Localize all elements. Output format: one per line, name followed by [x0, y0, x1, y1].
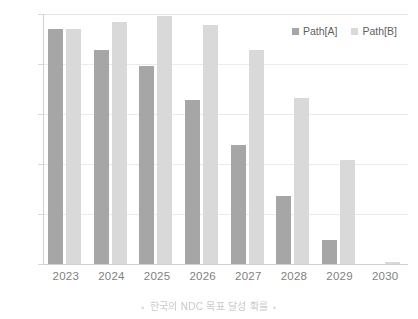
chart-legend: Path[A] Path[B]: [292, 26, 397, 37]
legend-item-path-a: Path[A]: [292, 26, 337, 37]
bar-patha-2024: [94, 50, 109, 264]
chart-caption: ▪한국의 NDC 목표 달성 확률▪: [0, 298, 418, 313]
x-axis-tick-label-2023: 2023: [43, 270, 89, 282]
legend-label-path-a: Path[A]: [303, 26, 337, 37]
x-axis-tick-label-2024: 2024: [88, 270, 134, 282]
bar-patha-2028: [276, 196, 291, 264]
legend-item-path-b: Path[B]: [351, 26, 396, 37]
x-axis-line: [43, 264, 408, 265]
legend-swatch-icon-path-a: [292, 28, 299, 35]
bar-group: [226, 14, 272, 264]
bar-group: [43, 14, 89, 264]
bar-group: [134, 14, 180, 264]
bar-pathb-2028: [294, 98, 309, 265]
x-axis-tick-label-2026: 2026: [180, 270, 226, 282]
x-axis-tick-label-2029: 2029: [317, 270, 363, 282]
bar-group: [180, 14, 226, 264]
x-axis-tick-label-2030: 2030: [362, 270, 408, 282]
caption-bullet-right-icon: ▪: [268, 303, 281, 312]
bar-patha-2025: [139, 66, 154, 264]
bar-pathb-2024: [112, 22, 127, 265]
legend-swatch-icon-path-b: [351, 28, 358, 35]
bar-group: [362, 14, 408, 264]
x-axis-tick-label-2027: 2027: [225, 270, 271, 282]
bars-layer: [43, 14, 408, 264]
legend-label-path-b: Path[B]: [362, 26, 396, 37]
bar-pathb-2026: [203, 25, 218, 265]
caption-bullet-left-icon: ▪: [137, 303, 150, 312]
bar-patha-2023: [48, 29, 63, 264]
bar-group: [89, 14, 135, 264]
bar-pathb-2030: [385, 262, 400, 265]
bar-chart: 0.50.40.30.20.10.0 202320242025202620272…: [0, 0, 418, 319]
bar-group: [271, 14, 317, 264]
bar-group: [317, 14, 363, 264]
bar-patha-2029: [322, 240, 337, 265]
bar-pathb-2027: [249, 50, 264, 264]
caption-text: 한국의 NDC 목표 달성 확률: [150, 301, 269, 312]
bar-pathb-2025: [157, 16, 172, 265]
bar-patha-2026: [185, 100, 200, 265]
x-axis-tick-label-2025: 2025: [134, 270, 180, 282]
bar-pathb-2029: [340, 160, 355, 265]
bar-pathb-2023: [66, 29, 81, 264]
x-axis-tick-label-2028: 2028: [271, 270, 317, 282]
bar-patha-2027: [231, 145, 246, 265]
